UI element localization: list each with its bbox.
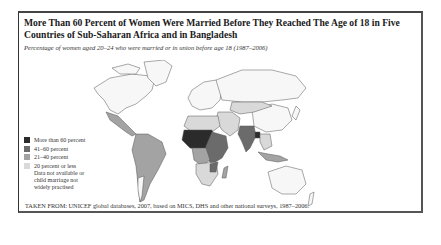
north-africa	[184, 116, 220, 132]
europe	[188, 80, 222, 110]
legend-swatch	[24, 137, 30, 143]
legend-swatch	[24, 146, 30, 152]
legend-swatch	[24, 163, 30, 169]
figure-subtitle: Percentage of women aged 20–24 who were …	[24, 44, 268, 51]
southeast-asia	[260, 134, 272, 150]
legend-swatch	[24, 154, 30, 160]
source-note: TAKEN FROM: UNICEF global databases, 200…	[25, 202, 309, 209]
north-america	[94, 74, 154, 114]
india	[238, 126, 256, 152]
figure-title: More Than 60 Percent of Women Were Marri…	[24, 17, 416, 41]
south-america	[132, 134, 166, 202]
mexico-central-america	[106, 112, 136, 136]
map-legend: More than 60 percent 41–60 percent 21–40…	[24, 136, 94, 192]
legend-item: More than 60 percent	[24, 136, 94, 145]
world-map	[92, 60, 322, 215]
legend-item: 41–60 percent	[24, 145, 94, 154]
bangladesh	[255, 132, 260, 138]
australia	[268, 166, 306, 194]
legend-item: Data not available or child marriage not…	[24, 170, 94, 192]
legend-item: 21–40 percent	[24, 153, 94, 162]
russia	[216, 70, 306, 102]
legend-item: 20 percent or less	[24, 162, 94, 171]
